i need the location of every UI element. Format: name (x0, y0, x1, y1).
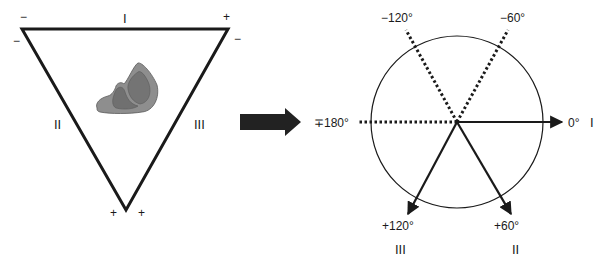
hex-lead-label-I-visible: I (590, 115, 594, 130)
lead-I-overlay: I (0, 0, 605, 271)
